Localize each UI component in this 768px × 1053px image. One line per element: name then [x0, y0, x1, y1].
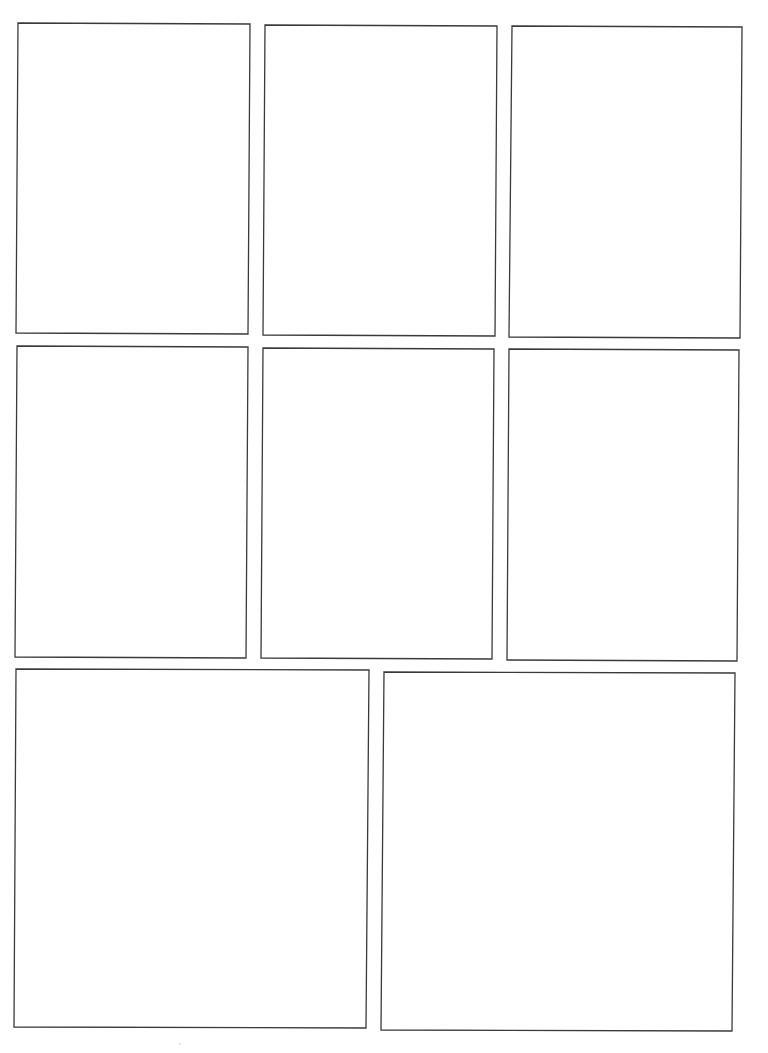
panel-2 [263, 25, 497, 336]
panel-row-3 [14, 669, 735, 1031]
panel-3 [509, 26, 742, 338]
panel-5 [261, 348, 494, 659]
panel-7 [14, 669, 369, 1028]
comic-page [0, 0, 768, 1053]
panel-8 [381, 672, 735, 1031]
scan-speck [179, 1043, 181, 1045]
panel-6 [507, 349, 739, 661]
panel-row-1 [16, 23, 742, 338]
panel-row-2 [15, 346, 739, 661]
panel-1 [16, 23, 250, 334]
panel-4 [15, 346, 248, 658]
